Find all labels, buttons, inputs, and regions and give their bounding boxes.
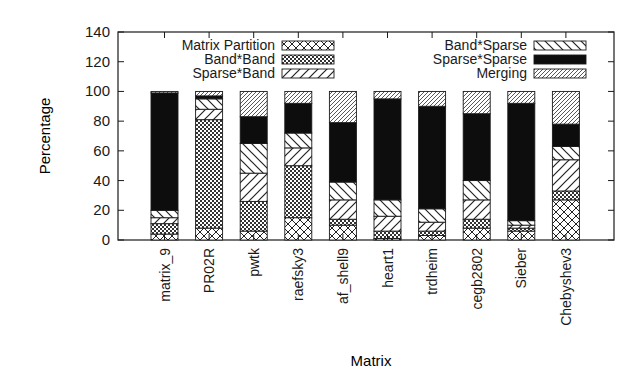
- bar-segment: [151, 210, 178, 217]
- bar-segment: [151, 93, 178, 210]
- bar-segment: [374, 200, 401, 216]
- legend: Matrix PartitionBand*BandSparse*BandBand…: [182, 37, 586, 81]
- bar-segment: [552, 91, 579, 124]
- x-tick-label: heart1: [380, 248, 396, 288]
- bar-segment: [374, 91, 401, 98]
- bar-segment: [552, 124, 579, 146]
- bar-segment: [463, 200, 490, 219]
- legend-label: Sparse*Band: [192, 65, 275, 81]
- bar-segment: [508, 91, 535, 103]
- bar-segment: [240, 117, 267, 144]
- bar-segment: [508, 103, 535, 220]
- y-tick-label: 80: [93, 112, 110, 129]
- bar-segment: [463, 91, 490, 113]
- y-tick-label: 120: [85, 53, 110, 70]
- x-tick-label: Chebyshev3: [558, 248, 574, 326]
- bar-stack-PR02R: [196, 91, 223, 240]
- bar-segment: [329, 123, 356, 182]
- bar-segment: [285, 91, 312, 103]
- x-tick-label: matrix_9: [157, 248, 173, 302]
- bar-stack-Chebyshev3: [552, 91, 579, 240]
- legend-swatch: [282, 55, 334, 64]
- bar-segment: [463, 114, 490, 181]
- bar-segment: [285, 148, 312, 166]
- bar-segment: [196, 109, 223, 119]
- bar-segment: [196, 120, 223, 228]
- bar-segment: [552, 200, 579, 240]
- bar-segment: [374, 99, 401, 200]
- y-tick-label: 40: [93, 172, 110, 189]
- y-tick-label: 20: [93, 201, 110, 218]
- x-tick-label: pwtk: [246, 247, 262, 277]
- stacked-bar-chart: 020406080100120140 matrix_9PR02Rpwtkraef…: [0, 0, 642, 387]
- bar-segment: [240, 91, 267, 116]
- x-tick-label: trdheim: [424, 248, 440, 295]
- x-tick-label: PR02R: [201, 248, 217, 293]
- bar-segment: [329, 91, 356, 122]
- bar-stack-cegb2802: [463, 91, 490, 240]
- y-tick-label: 140: [85, 23, 110, 40]
- y-tick-label: 0: [102, 231, 110, 248]
- bar-segment: [285, 166, 312, 218]
- bar-segment: [419, 222, 446, 231]
- bar-segment: [552, 146, 579, 159]
- bar-segment: [240, 143, 267, 173]
- x-axis-title: Matrix: [351, 352, 392, 369]
- legend-swatch: [534, 41, 586, 50]
- bar-segment: [463, 181, 490, 200]
- bar-segment: [151, 224, 178, 234]
- bar-segment: [419, 91, 446, 106]
- bar-segment: [419, 209, 446, 222]
- bar-stack-heart1: [374, 91, 401, 240]
- y-tick-label: 60: [93, 142, 110, 159]
- bars-group: [151, 91, 579, 240]
- bar-segment: [240, 201, 267, 231]
- bar-stack-pwtk: [240, 91, 267, 240]
- bar-segment: [285, 133, 312, 148]
- bar-segment: [552, 191, 579, 200]
- legend-item: Sparse*Band: [192, 65, 334, 81]
- x-tick-label: Sieber: [513, 248, 529, 289]
- legend-swatch: [534, 69, 586, 78]
- bar-stack-Sieber: [508, 91, 535, 240]
- x-tick-label: af_shell9: [335, 248, 351, 304]
- legend-label: Merging: [476, 65, 527, 81]
- bar-segment: [552, 160, 579, 191]
- bar-stack-trdheim: [419, 91, 446, 240]
- legend-swatch: [282, 69, 334, 78]
- x-tick-label: cegb2802: [469, 248, 485, 310]
- legend-swatch: [282, 41, 334, 50]
- x-tick-label: raefsky3: [290, 248, 306, 301]
- bar-stack-raefsky3: [285, 91, 312, 240]
- bar-segment: [285, 103, 312, 133]
- bar-segment: [374, 216, 401, 231]
- bar-segment: [463, 219, 490, 228]
- bar-segment: [240, 173, 267, 201]
- legend-item: Merging: [476, 65, 586, 81]
- bar-stack-af_shell9: [329, 91, 356, 240]
- bar-segment: [329, 182, 356, 200]
- y-axis-title: Percentage: [36, 98, 53, 175]
- bar-segment: [419, 106, 446, 209]
- bar-segment: [508, 221, 535, 225]
- bar-segment: [151, 218, 178, 224]
- bar-segment: [196, 99, 223, 109]
- bar-segment: [196, 91, 223, 95]
- y-tick-label: 100: [85, 82, 110, 99]
- legend-swatch: [534, 55, 586, 64]
- bar-segment: [329, 219, 356, 225]
- bar-segment: [329, 200, 356, 219]
- bar-stack-matrix_9: [151, 91, 178, 240]
- bar-segment: [151, 91, 178, 92]
